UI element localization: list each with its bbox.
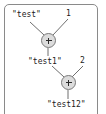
edge-two-to-plus2 [72,66,83,77]
label-result-test12: "test12" [47,100,86,109]
plus-operator-node-1[interactable] [41,33,56,48]
plus-icon-vertical [48,38,49,44]
diagram-canvas: "test" 1 "test1" 2 "test12" [0,0,106,114]
edge-test-to-plus1 [30,22,44,35]
label-operand-two: 2 [80,56,85,65]
edge-one-to-plus1 [53,19,68,35]
plus-operator-node-2[interactable] [61,75,76,90]
edge-test1-to-plus2 [52,66,64,77]
label-result-test1: "test1" [28,57,62,66]
label-operand-test: "test" [12,10,41,19]
plus-icon-vertical [68,80,69,86]
label-operand-one: 1 [66,9,71,18]
